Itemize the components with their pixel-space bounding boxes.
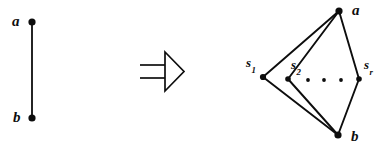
ellipsis-dot [339,78,343,82]
vertex-label-s1: s1 [246,56,255,72]
vertex-label-s2-subscript: 2 [296,67,300,77]
edge-sr-b [338,79,359,135]
vertex-label-a-right: a [352,3,360,18]
vertex-label-sr-subscript: r [369,67,372,77]
right-graph-vertices [260,7,362,138]
vertex-label-sr: sr [364,58,373,74]
vertex-label-s2: s2 [291,58,300,74]
vertex-sr [356,76,362,82]
edge-s1-b [263,77,338,135]
right-graph-ellipsis [306,78,343,82]
ellipsis-dot [306,78,310,82]
figure-canvas: a b a b s [0,0,386,153]
vertex-s2 [285,76,291,82]
right-graph [0,0,386,153]
edge-s2-b [288,79,338,135]
right-graph-edges [263,11,359,135]
vertex-label-b-right: b [351,129,359,144]
edge-sr-a [339,11,359,79]
vertex-a [335,7,342,14]
ellipsis-dot [322,78,326,82]
vertex-b [334,131,341,138]
vertex-s1 [260,74,266,80]
edge-s1-a [263,11,339,77]
vertex-label-s1-subscript: 1 [251,65,255,75]
